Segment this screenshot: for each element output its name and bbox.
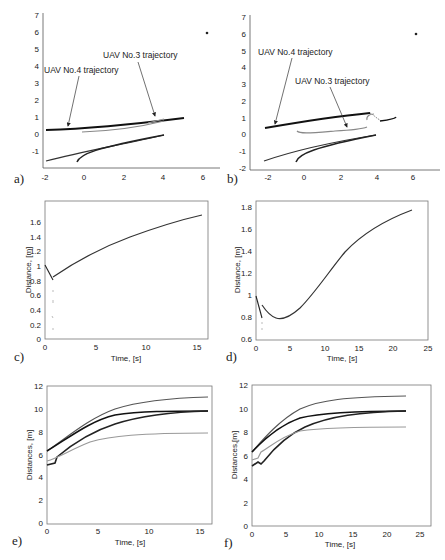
- x-axis-label: Time, [s]: [325, 540, 355, 549]
- svg-text:8: 8: [39, 428, 44, 437]
- svg-text:6: 6: [411, 173, 416, 182]
- svg-text:4: 4: [161, 173, 166, 182]
- svg-text:4: 4: [39, 473, 44, 482]
- uav3-arrow: [138, 62, 155, 116]
- svg-text:4: 4: [375, 173, 380, 182]
- x-axis-label: Time, [s]: [111, 354, 141, 363]
- svg-text:2: 2: [242, 97, 247, 106]
- svg-text:3: 3: [35, 79, 40, 88]
- svg-text:15: 15: [355, 344, 364, 353]
- svg-text:0: 0: [242, 130, 247, 139]
- uav4-annotation: UAV No.4 trajectory: [258, 47, 333, 57]
- svg-text:0.8: 0.8: [241, 313, 253, 322]
- svg-text:10: 10: [34, 405, 43, 414]
- distance-curve: [262, 210, 412, 319]
- panel-label-e: e): [12, 533, 22, 548]
- svg-text:1: 1: [35, 113, 40, 122]
- svg-text:0: 0: [39, 519, 44, 528]
- svg-text:4: 4: [35, 62, 40, 71]
- uav3-trajectory: [297, 127, 367, 133]
- y-tick-labels: 0 2 4 6 8 10 12: [239, 381, 248, 531]
- y-axis-label: Distance, [m]: [233, 247, 242, 294]
- svg-text:0: 0: [250, 530, 255, 539]
- svg-text:6: 6: [35, 28, 40, 37]
- svg-text:3: 3: [242, 80, 247, 89]
- svg-text:6: 6: [242, 30, 247, 39]
- svg-text:15: 15: [193, 343, 202, 352]
- svg-text:12: 12: [34, 382, 43, 391]
- svg-text:0.4: 0.4: [30, 306, 42, 315]
- y-axis-label: Distances,[m]: [230, 431, 239, 479]
- uav4-arrow: [275, 58, 292, 124]
- y-axis-label: Distance, [m]: [24, 247, 33, 294]
- panel-label-a: a): [14, 171, 24, 186]
- svg-text:-1: -1: [239, 147, 247, 156]
- y-tick-labels: 7 6 5 4 3 2 1 0 -1 -2: [239, 13, 247, 173]
- svg-text:12: 12: [239, 381, 248, 390]
- x-tick-labels: 0 5 10 15: [45, 527, 205, 536]
- svg-text:10: 10: [142, 343, 151, 352]
- y-tick-labels: 0 2 4 6 8 10 12: [34, 382, 43, 528]
- svg-text:1: 1: [248, 291, 253, 300]
- x-axis-label: Time, [s]: [327, 354, 357, 363]
- uav4-annotation: UAV No.4 trajectory: [44, 65, 119, 75]
- svg-text:1.6: 1.6: [241, 225, 253, 234]
- y-tick-labels: 7 6 5 4 3 2 1 0 -1: [32, 11, 40, 156]
- svg-text:6: 6: [39, 451, 44, 460]
- svg-text:0.2: 0.2: [30, 321, 42, 330]
- panel-b: 7 6 5 4 3 2 1 0 -1 -2 -2 0 2 4 6 b) UAV …: [227, 13, 440, 186]
- panel-label-c: c): [14, 349, 24, 364]
- x-tick-labels: 0 5 10 15: [43, 343, 202, 352]
- svg-text:0: 0: [35, 130, 40, 139]
- svg-text:15: 15: [196, 527, 205, 536]
- svg-text:25: 25: [416, 530, 425, 539]
- svg-text:7: 7: [35, 11, 40, 20]
- svg-text:-1: -1: [32, 147, 40, 156]
- panel-e: 0 2 4 6 8 10 12 0 5 10 15 Time, [s] Dist…: [12, 382, 212, 548]
- x-tick-labels: 0 5 10 15 20 25: [250, 530, 425, 539]
- svg-text:10: 10: [315, 530, 324, 539]
- distance-curve: [53, 215, 202, 277]
- svg-text:-2: -2: [41, 173, 49, 182]
- plot-frame: [47, 386, 212, 524]
- svg-text:5: 5: [35, 45, 40, 54]
- svg-text:15: 15: [349, 530, 358, 539]
- svg-text:8: 8: [244, 428, 249, 437]
- svg-text:0: 0: [302, 173, 307, 182]
- svg-text:1: 1: [242, 114, 247, 123]
- panel-label-d: d): [226, 349, 237, 364]
- svg-text:1.2: 1.2: [241, 269, 253, 278]
- svg-text:5: 5: [284, 530, 289, 539]
- uav3-annotation: UAV No.3 trajectory: [103, 50, 178, 60]
- svg-text:0: 0: [82, 173, 87, 182]
- svg-text:6: 6: [244, 452, 249, 461]
- uav3-annotation: UAV No.3 trajectory: [295, 76, 370, 86]
- svg-text:5: 5: [94, 343, 99, 352]
- svg-text:1.4: 1.4: [30, 233, 42, 242]
- svg-text:4: 4: [242, 63, 247, 72]
- y-tick-labels: 0.6 0.8 1 1.2 1.4 1.6 1.8: [241, 203, 253, 344]
- svg-text:10: 10: [145, 527, 154, 536]
- distance-curve-3: [47, 411, 208, 465]
- uav4-arrow: [68, 76, 79, 126]
- panel-d: 0.6 0.8 1 1.2 1.4 1.6 1.8 0 5 10 15 20 2…: [226, 201, 433, 364]
- target-point: [206, 32, 209, 35]
- svg-text:1.4: 1.4: [241, 247, 253, 256]
- uav4-trajectory: [265, 113, 370, 128]
- svg-text:-2: -2: [239, 164, 247, 173]
- svg-text:0: 0: [37, 335, 42, 344]
- plot-frame: [252, 385, 431, 526]
- svg-text:-2: -2: [264, 173, 272, 182]
- panel-f: 0 2 4 6 8 10 12 0 5 10 15 20 25 Time, [s…: [224, 381, 431, 550]
- svg-text:2: 2: [339, 173, 344, 182]
- svg-text:25: 25: [424, 344, 433, 353]
- svg-text:0: 0: [244, 522, 249, 531]
- panel-a: 7 6 5 4 3 2 1 0 -1 -2 0 2 4 6 a) UAV No.…: [14, 11, 220, 186]
- uav3-arrow: [330, 87, 347, 127]
- svg-text:6: 6: [201, 173, 206, 182]
- svg-text:5: 5: [288, 344, 293, 353]
- svg-text:20: 20: [383, 530, 392, 539]
- panel-label-f: f): [224, 535, 233, 550]
- svg-text:20: 20: [389, 344, 398, 353]
- svg-text:2: 2: [35, 96, 40, 105]
